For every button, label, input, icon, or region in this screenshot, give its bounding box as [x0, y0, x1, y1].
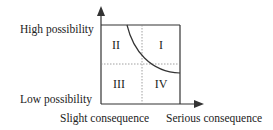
quadrant-iii-label: III	[113, 78, 125, 90]
low-possibility-label: Low possibility	[20, 94, 92, 106]
risk-curve	[127, 25, 180, 73]
slight-consequence-label: Slight consequence	[60, 113, 149, 125]
x-axis-arrow-icon	[194, 100, 204, 108]
quadrant-ii-label: II	[112, 39, 120, 51]
serious-consequence-label: Serious consequence	[166, 113, 262, 125]
quadrant-iv-label: IV	[155, 78, 168, 90]
risk-matrix-graphic	[0, 0, 273, 130]
high-possibility-label: High possibility	[20, 24, 94, 36]
y-axis-arrow-icon	[97, 6, 105, 16]
quadrant-i-label: I	[159, 39, 163, 51]
